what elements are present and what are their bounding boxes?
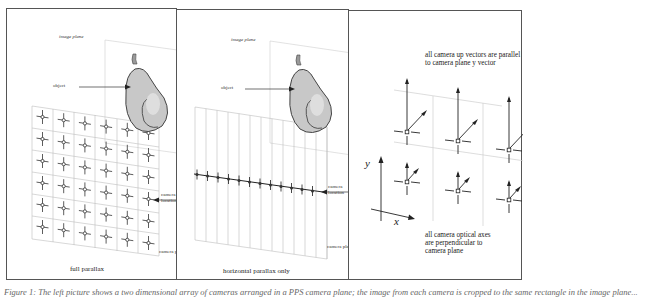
optical-axes-note-line-3: camera plane xyxy=(425,247,525,255)
object-label: object xyxy=(53,83,65,88)
optical-axes-note-line-2: are perpendicular to xyxy=(425,239,525,247)
object-label: object xyxy=(221,85,233,90)
up-vector-note-line-2: to camera plane y vector xyxy=(425,59,525,67)
x-axis-label: x xyxy=(394,215,399,227)
up-vector-note: all camera up vectors are parallel to ca… xyxy=(425,51,525,67)
optical-axes-note-line-1: all camera optical axes xyxy=(425,231,525,239)
image-plane-label: image plane xyxy=(231,37,256,42)
camera-markers xyxy=(37,110,155,250)
camera-location-label-2: location xyxy=(161,198,177,203)
y-axis-label: y xyxy=(365,157,370,169)
full-parallax-diagram xyxy=(7,9,178,281)
pear-object-icon xyxy=(290,55,332,133)
camera-plane-grid xyxy=(394,90,523,226)
panel-title-horizontal-parallax: horizontal parallax only xyxy=(223,267,290,275)
camera-row xyxy=(194,170,323,197)
panel-title-full-parallax: full parallax xyxy=(70,265,104,273)
optical-axes-note: all camera optical axes are perpendicula… xyxy=(425,231,525,255)
xy-axes-icon xyxy=(371,161,411,221)
camera-vectors xyxy=(394,78,523,213)
pear-object-icon xyxy=(126,54,168,132)
camera-location-label-1: camera xyxy=(161,192,175,197)
panel-full-parallax: image plane object camera location camer… xyxy=(6,8,177,280)
panel-horizontal-parallax: image plane object camera location camer… xyxy=(176,9,349,280)
figure-caption: Figure 1: The left picture shows a two d… xyxy=(4,287,662,297)
image-plane-label: image plane xyxy=(59,34,84,39)
panel-camera-orientation: all camera up vectors are parallel to ca… xyxy=(348,10,522,280)
up-vector-note-line-1: all camera up vectors are parallel xyxy=(425,51,525,59)
horizontal-parallax-diagram xyxy=(177,10,350,281)
camera-location-label-1: camera xyxy=(328,184,342,189)
camera-location-label-2: location xyxy=(328,190,344,195)
